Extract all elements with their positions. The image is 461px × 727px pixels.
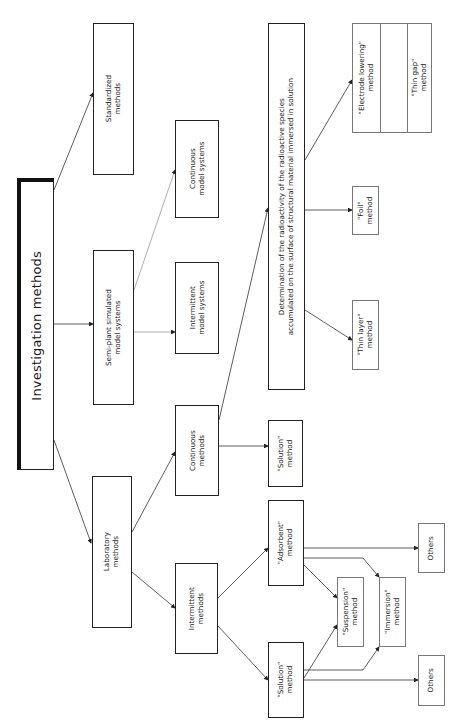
investigation-methods-box: Investigation methods [17,178,54,470]
intermittent-methods-label: Intermittent methods [188,587,205,630]
intermittent-model-systems-label: Intermittent model systems [188,281,205,335]
thin-layer-method-box: "Thin layer" method [352,300,379,370]
foil-method-label: "Foil" method [357,197,374,225]
solution-method-bottom-label: "Solution" method [277,662,294,698]
electrode-thin-gap-box: "Electrode lowering" method "Thin gap" m… [352,23,432,133]
continuous-methods-label: Continuous methods [188,430,205,471]
dotted-gap [380,24,408,132]
thin-gap-cell: "Thin gap" method [406,24,432,132]
others-bottom-label: Others [427,668,436,692]
electrode-lowering-cell: "Electrode lowering" method [353,24,380,132]
standardized-methods-box: Standardized methods [93,23,134,175]
intermittent-methods-box: Intermittent methods [175,563,218,654]
thin-layer-method-label: "Thin layer" method [357,314,374,356]
intermittent-model-systems-box: Intermittent model systems [175,262,219,354]
solution-method-top-box: "Solution" method [268,420,303,487]
others-bottom-box: Others [418,655,445,706]
suspension-method-label: "Suspension" method [342,588,359,636]
laboratory-methods-box: Laboratory methods [92,476,132,628]
adsorbent-method-box: "Adsorbent" method [268,500,304,586]
continuous-model-systems-box: Continuous model systems [175,120,219,218]
suspension-method-box: "Suspension" method [337,577,364,647]
semi-plant-label: Semi-plant simulated model systems [105,289,122,366]
adsorbent-method-label: "Adsorbent" method [277,521,294,564]
solution-method-bottom-box: "Solution" method [268,642,304,718]
determination-label: Determination of the radioactivity of th… [278,78,295,335]
solution-method-top-label: "Solution" method [277,436,294,472]
determination-box: Determination of the radioactivity of th… [268,23,305,390]
others-top-box: Others [418,523,445,573]
laboratory-methods-label: Laboratory methods [103,532,120,571]
foil-method-box: "Foil" method [352,186,379,235]
semi-plant-box: Semi-plant simulated model systems [93,250,134,405]
continuous-methods-box: Continuous methods [175,405,219,496]
immersion-method-label: "Immersion" method [384,590,401,635]
electrode-lowering-label: "Electrode lowering" method [358,41,375,115]
continuous-model-systems-label: Continuous model systems [188,142,205,196]
standardized-methods-label: Standardized methods [105,75,122,122]
investigation-methods-label: Investigation methods [29,251,45,401]
immersion-method-box: "Immersion" method [379,577,406,647]
thin-gap-label: "Thin gap" method [411,59,428,97]
others-top-label: Others [427,536,436,560]
